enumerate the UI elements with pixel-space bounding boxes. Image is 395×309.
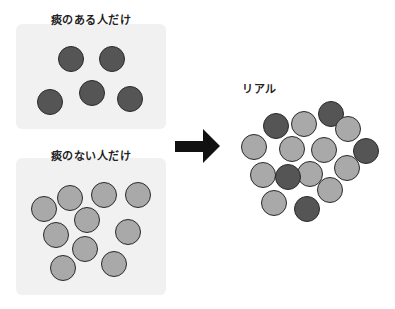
- light-circle: [125, 182, 151, 208]
- light-circle: [334, 155, 360, 181]
- light-circle: [317, 177, 343, 203]
- light-circle: [31, 196, 57, 222]
- light-circle: [261, 190, 287, 216]
- light-circle: [101, 251, 127, 277]
- dark-circle: [275, 164, 301, 190]
- dark-circle: [117, 86, 143, 112]
- light-circle: [57, 185, 83, 211]
- light-circle: [241, 134, 267, 160]
- light-circle: [74, 207, 100, 233]
- light-circle: [311, 137, 337, 163]
- real-title: リアル: [242, 80, 277, 96]
- light-circle: [91, 182, 117, 208]
- light-circle: [291, 111, 317, 137]
- light-circle: [279, 136, 305, 162]
- dark-circle: [99, 46, 125, 72]
- dark-circle: [294, 196, 320, 222]
- dark-circle: [58, 46, 84, 72]
- light-circle: [50, 255, 76, 281]
- light-circle: [335, 116, 361, 142]
- light-circle: [43, 222, 69, 248]
- dark-circle: [263, 113, 289, 139]
- dark-circle: [37, 89, 63, 115]
- light-circle: [72, 236, 98, 262]
- dark-circle: [79, 80, 105, 106]
- light-circle: [250, 162, 276, 188]
- light-circle: [115, 219, 141, 245]
